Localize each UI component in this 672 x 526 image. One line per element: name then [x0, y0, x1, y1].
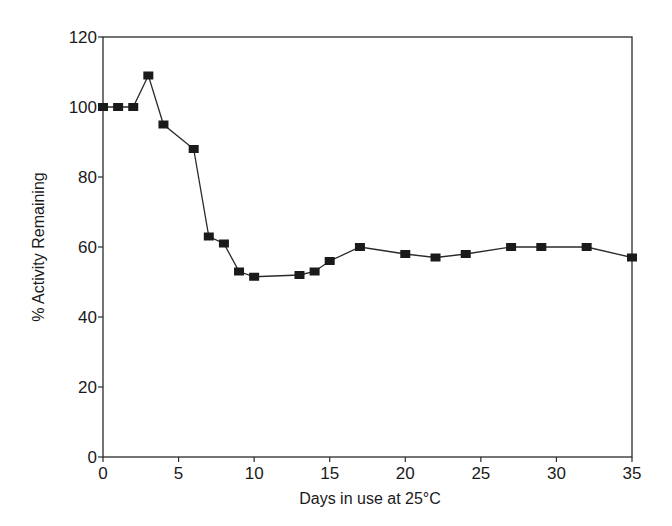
- data-point-marker: [325, 257, 335, 265]
- data-point-marker: [98, 103, 108, 111]
- x-tick-label: 25: [471, 464, 490, 483]
- x-axis-title: Days in use at 25°C: [299, 490, 441, 507]
- data-point-marker: [204, 233, 214, 241]
- data-point-marker: [219, 240, 229, 248]
- y-tick-label: 60: [78, 238, 97, 257]
- y-tick-label: 120: [69, 28, 97, 47]
- x-tick-label: 15: [320, 464, 339, 483]
- data-point-marker: [143, 72, 153, 80]
- data-point-marker: [431, 254, 441, 262]
- y-axis: 020406080100120: [69, 28, 103, 467]
- y-tick-label: 100: [69, 98, 97, 117]
- x-tick-label: 0: [98, 464, 107, 483]
- data-point-marker: [294, 271, 304, 279]
- y-tick-label: 40: [78, 308, 97, 327]
- line-chart: 020406080100120 05101520253035 Days in u…: [0, 0, 672, 526]
- data-point-marker: [627, 254, 637, 262]
- data-point-marker: [113, 103, 123, 111]
- x-tick-label: 30: [547, 464, 566, 483]
- data-point-marker: [158, 121, 168, 129]
- y-axis-title: % Activity Remaining: [30, 172, 47, 321]
- data-point-marker: [234, 268, 244, 276]
- data-point-marker: [536, 243, 546, 251]
- data-point-marker: [582, 243, 592, 251]
- x-tick-label: 20: [396, 464, 415, 483]
- data-point-marker: [506, 243, 516, 251]
- data-point-marker: [461, 250, 471, 258]
- data-point-marker: [310, 268, 320, 276]
- data-point-marker: [355, 243, 365, 251]
- y-tick-label: 80: [78, 168, 97, 187]
- y-tick-label: 20: [78, 378, 97, 397]
- series-markers: [98, 72, 637, 281]
- data-point-marker: [189, 145, 199, 153]
- y-tick-label: 0: [88, 448, 97, 467]
- x-tick-label: 5: [174, 464, 183, 483]
- x-tick-label: 35: [623, 464, 642, 483]
- data-point-marker: [249, 273, 259, 281]
- data-point-marker: [400, 250, 410, 258]
- x-tick-label: 10: [245, 464, 264, 483]
- series-line: [103, 76, 632, 277]
- x-axis: 05101520253035: [98, 457, 641, 483]
- data-point-marker: [128, 103, 138, 111]
